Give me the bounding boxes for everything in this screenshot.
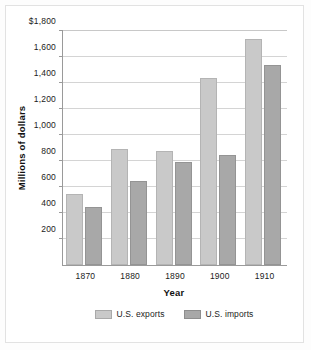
- y-axis-tick-label: 600: [41, 172, 56, 182]
- y-axis-tick-label: 400: [41, 198, 56, 208]
- legend-item-label: U.S. imports: [206, 309, 254, 319]
- y-axis-tick-label: 1,600: [34, 42, 56, 52]
- bar: [245, 39, 262, 265]
- legend-item[interactable]: U.S. exports: [95, 309, 165, 319]
- bar-group: [108, 31, 153, 265]
- bar: [66, 194, 83, 265]
- exports-swatch: [95, 310, 112, 319]
- bar: [130, 181, 147, 265]
- bar: [219, 155, 236, 265]
- bar: [156, 151, 173, 265]
- y-axis-tick-label: 200: [41, 224, 56, 234]
- y-axis-tick-label: 800: [41, 146, 56, 156]
- legend-item[interactable]: U.S. imports: [184, 309, 254, 319]
- y-axis-tick-label: 1,200: [34, 94, 56, 104]
- legend-item-label: U.S. exports: [117, 309, 165, 319]
- x-axis-tick-label: 1910: [235, 271, 295, 281]
- y-axis-tick-label: 1,400: [34, 68, 56, 78]
- x-axis-title: Year: [62, 287, 286, 298]
- bar: [85, 207, 102, 265]
- bar-chart-figure: Millions of dollars $1,8001,6001,4001,20…: [0, 0, 311, 350]
- bar: [200, 78, 217, 265]
- plot-area: $1,8001,6001,4001,2001,000800600400200 1…: [62, 31, 287, 266]
- bar-group: [63, 31, 108, 265]
- y-axis-tick-label: 1,000: [34, 120, 56, 130]
- bar-group: [153, 31, 198, 265]
- bar: [175, 162, 192, 265]
- y-axis-title: Millions of dollars: [16, 31, 28, 265]
- bar: [264, 65, 281, 265]
- bar-group: [242, 31, 287, 265]
- y-axis-tick-label: $1,800: [29, 16, 56, 26]
- bar-group: [197, 31, 242, 265]
- chart-legend: U.S. exportsU.S. imports: [62, 309, 286, 319]
- bar: [111, 149, 128, 265]
- imports-swatch: [184, 310, 201, 319]
